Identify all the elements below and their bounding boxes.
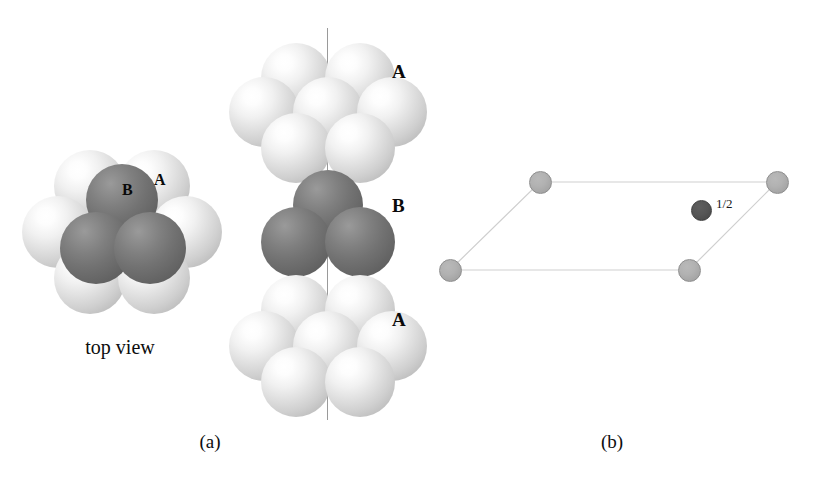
top-view-caption: top view [85, 337, 154, 357]
side-view-layer-label-0-a: A [392, 62, 406, 81]
top-view-label-b: B [122, 182, 133, 198]
side-view-layer-label-2-a: A [392, 310, 406, 329]
side-view-layer-2-a-sphere-6 [325, 347, 395, 417]
unit-cell-corner-node-bottom-left [439, 259, 462, 282]
unit-cell-interior-node-half-height [691, 200, 712, 221]
figure-caption-b: (b) [601, 432, 623, 451]
figure-caption-a: (a) [199, 432, 220, 451]
unit-cell-height-fraction-label: 1/2 [716, 197, 733, 210]
side-view-layer-label-1-b: B [392, 196, 405, 215]
unit-cell-corner-node-top-right [766, 171, 789, 194]
top-view-layer-b-sphere-2 [114, 212, 186, 284]
side-view-layer-1-b-sphere-1 [261, 207, 331, 277]
hcp-structure-figure: AB top view ABA 1/2 (a)(b) [0, 0, 832, 477]
unit-cell-corner-node-top-left [529, 171, 552, 194]
side-view-layer-2-a-sphere-5 [261, 347, 331, 417]
side-view-layer-1-b-sphere-2 [325, 207, 395, 277]
unit-cell-corner-node-bottom-right [678, 259, 701, 282]
top-view-label-a: A [154, 172, 166, 188]
